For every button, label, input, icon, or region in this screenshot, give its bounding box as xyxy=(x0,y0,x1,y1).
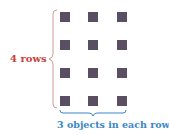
object-square xyxy=(117,68,127,78)
column-brace-icon xyxy=(60,110,126,116)
braces xyxy=(0,0,169,135)
object-square xyxy=(117,96,127,106)
object-square xyxy=(88,40,98,50)
object-square xyxy=(88,96,98,106)
object-square xyxy=(60,68,70,78)
row-count-label: 4 rows xyxy=(10,53,47,64)
row-brace-icon xyxy=(49,10,57,108)
object-square xyxy=(88,12,98,22)
object-square xyxy=(88,68,98,78)
column-count-label: 3 objects in each row xyxy=(57,119,169,130)
object-square xyxy=(60,96,70,106)
object-square xyxy=(117,40,127,50)
object-square xyxy=(60,12,70,22)
object-square xyxy=(117,12,127,22)
object-square xyxy=(60,40,70,50)
